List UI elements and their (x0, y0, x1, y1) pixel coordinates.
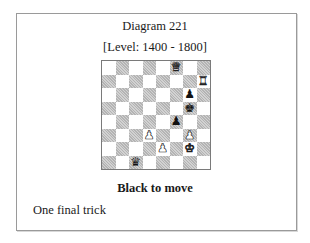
diagram-title: Diagram 221 (0, 19, 310, 33)
square-d4 (143, 115, 157, 129)
square-e1 (156, 156, 170, 170)
square-f3 (170, 129, 184, 143)
square-a6 (102, 88, 116, 102)
white-pawn-icon: ♟ (184, 129, 195, 142)
square-h8 (197, 61, 211, 75)
black-pawn-icon: ♟ (184, 88, 195, 101)
square-f1 (170, 156, 184, 170)
white-king-icon: ♚ (184, 142, 195, 155)
square-d7 (143, 75, 157, 89)
black-king-icon: ♚ (184, 102, 195, 115)
square-g5: ♚ (183, 102, 197, 116)
square-a4 (102, 115, 116, 129)
side-to-move: Black to move (0, 181, 310, 195)
square-d2 (143, 142, 157, 156)
square-e5 (156, 102, 170, 116)
square-b1 (116, 156, 130, 170)
square-g7 (183, 75, 197, 89)
square-f2 (170, 142, 184, 156)
black-pawn-icon: ♟ (171, 115, 182, 128)
square-a7 (102, 75, 116, 89)
white-rook-icon: ♜ (198, 75, 209, 88)
chess-board: ♛♜♟♚♟♟♟♟♚♛ (101, 60, 211, 170)
square-c7 (129, 75, 143, 89)
square-c6 (129, 88, 143, 102)
square-b7 (116, 75, 130, 89)
square-d3: ♟ (143, 129, 157, 143)
difficulty-level: [Level: 1400 - 1800] (0, 40, 310, 54)
white-queen-icon: ♛ (171, 61, 182, 74)
square-h5 (197, 102, 211, 116)
square-g4 (183, 115, 197, 129)
puzzle-caption: One final trick (33, 203, 106, 217)
square-g2: ♚ (183, 142, 197, 156)
square-a1 (102, 156, 116, 170)
square-h1 (197, 156, 211, 170)
square-f6 (170, 88, 184, 102)
square-b2 (116, 142, 130, 156)
square-c4 (129, 115, 143, 129)
square-h4 (197, 115, 211, 129)
square-c1: ♛ (129, 156, 143, 170)
square-d8 (143, 61, 157, 75)
square-e7 (156, 75, 170, 89)
square-c5 (129, 102, 143, 116)
black-queen-icon: ♛ (130, 156, 141, 169)
square-f4: ♟ (170, 115, 184, 129)
square-f7 (170, 75, 184, 89)
white-pawn-icon: ♟ (144, 129, 155, 142)
square-h6 (197, 88, 211, 102)
square-e6 (156, 88, 170, 102)
square-h3 (197, 129, 211, 143)
square-h7: ♜ (197, 75, 211, 89)
square-g8 (183, 61, 197, 75)
square-g3: ♟ (183, 129, 197, 143)
square-d6 (143, 88, 157, 102)
square-a2 (102, 142, 116, 156)
square-c2 (129, 142, 143, 156)
square-e3 (156, 129, 170, 143)
white-pawn-icon: ♟ (157, 142, 168, 155)
square-b3 (116, 129, 130, 143)
square-d1 (143, 156, 157, 170)
square-f5 (170, 102, 184, 116)
square-g1 (183, 156, 197, 170)
square-c8 (129, 61, 143, 75)
square-b5 (116, 102, 130, 116)
square-a8 (102, 61, 116, 75)
square-e4 (156, 115, 170, 129)
square-g6: ♟ (183, 88, 197, 102)
square-h2 (197, 142, 211, 156)
square-a5 (102, 102, 116, 116)
square-b6 (116, 88, 130, 102)
square-e8 (156, 61, 170, 75)
square-b4 (116, 115, 130, 129)
square-f8: ♛ (170, 61, 184, 75)
square-e2: ♟ (156, 142, 170, 156)
square-a3 (102, 129, 116, 143)
square-c3 (129, 129, 143, 143)
square-b8 (116, 61, 130, 75)
square-d5 (143, 102, 157, 116)
